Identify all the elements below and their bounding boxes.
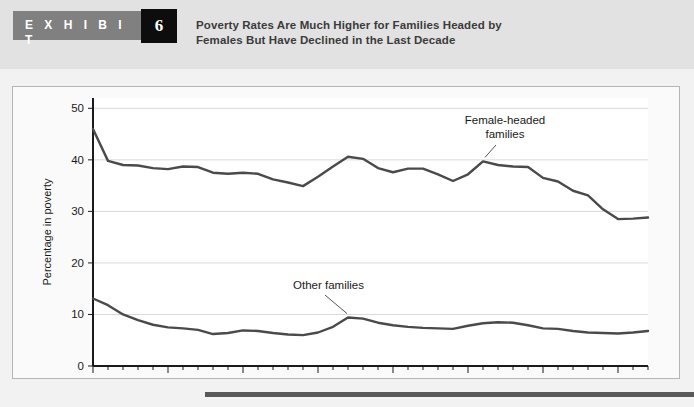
annotation-other-families: Other families bbox=[293, 279, 364, 291]
y-tick-label: 40 bbox=[71, 154, 84, 166]
exhibit-label: E X H I B I T bbox=[25, 18, 135, 48]
y-tick-label: 10 bbox=[71, 308, 84, 320]
y-tick-label: 20 bbox=[71, 257, 84, 269]
y-axis-title: Percentage in poverty bbox=[41, 178, 53, 286]
plot-background bbox=[93, 98, 648, 366]
x-tick-label: 1970 bbox=[155, 377, 181, 379]
poverty-rate-line-chart: 0102030405019651970197519801985199019952… bbox=[12, 86, 680, 379]
y-tick-label: 0 bbox=[78, 360, 84, 372]
x-tick-label: 1975 bbox=[230, 377, 256, 379]
exhibit-title: Poverty Rates Are Much Higher for Famili… bbox=[196, 18, 636, 47]
x-tick-label: 1990 bbox=[455, 377, 481, 379]
x-tick-label: 2000 bbox=[605, 377, 631, 379]
exhibit-title-line2: Females But Have Declined in the Last De… bbox=[196, 34, 455, 46]
bottom-rule bbox=[205, 392, 694, 397]
x-tick-label: 1965 bbox=[80, 377, 106, 379]
exhibit-page: E X H I B I T 6 Poverty Rates Are Much H… bbox=[0, 0, 694, 407]
x-tick-label: 1995 bbox=[530, 377, 556, 379]
exhibit-title-line1: Poverty Rates Are Much Higher for Famili… bbox=[196, 19, 502, 31]
x-tick-label: 1980 bbox=[305, 377, 331, 379]
annotation-female-headed-line2: families bbox=[486, 128, 525, 140]
x-tick-label: 1985 bbox=[380, 377, 406, 379]
exhibit-number: 6 bbox=[141, 16, 177, 36]
y-tick-label: 50 bbox=[71, 102, 84, 114]
y-tick-label: 30 bbox=[71, 205, 84, 217]
annotation-female-headed-line1: Female-headed bbox=[465, 114, 546, 126]
